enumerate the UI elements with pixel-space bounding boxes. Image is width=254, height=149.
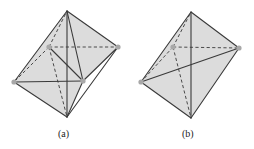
vertex-dot-right-a: [115, 44, 120, 49]
panel-label-b: (b): [182, 128, 194, 139]
vertex-dot-front-a: [80, 78, 85, 83]
vertex-dot-right-b: [236, 45, 241, 50]
polyhedron-a: [11, 11, 120, 117]
vertex-dot-back-a: [46, 44, 51, 49]
vertex-dot-left-b: [138, 79, 143, 84]
diagram-canvas: [0, 0, 254, 149]
vertex-dot-left-a: [11, 79, 16, 84]
vertex-dot-back-b: [170, 44, 175, 49]
polyhedron-b: [138, 12, 241, 118]
panel-label-a: (a): [58, 128, 69, 139]
